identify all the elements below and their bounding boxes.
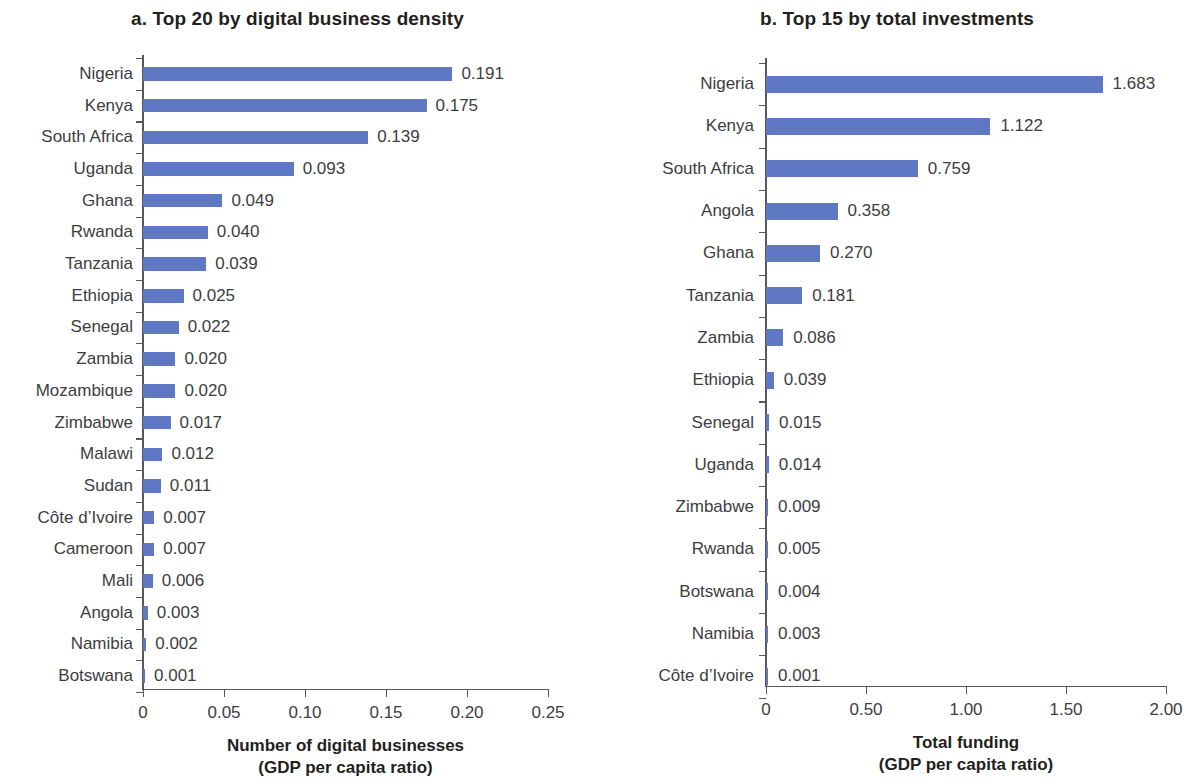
value-label: 0.007 (163, 540, 206, 557)
bar (766, 583, 768, 600)
category-label: Cameroon (54, 540, 133, 557)
category-label: Zambia (697, 329, 754, 346)
category-label: Rwanda (692, 540, 754, 557)
bar (766, 76, 1103, 93)
bar (143, 543, 154, 557)
bar (766, 287, 802, 304)
panel-a-x-axis-title-line1: Number of digital businesses (227, 736, 464, 755)
value-label: 0.139 (377, 128, 420, 145)
bar (143, 99, 427, 113)
category-label: Nigeria (79, 65, 133, 82)
value-label: 0.005 (778, 540, 821, 557)
category-label: Namibia (692, 625, 754, 642)
category-label: Ghana (703, 244, 754, 261)
category-label: Tanzania (686, 287, 754, 304)
x-axis-tick (866, 686, 867, 694)
y-axis-tick (759, 571, 766, 572)
value-label: 0.270 (830, 244, 873, 261)
value-label: 0.015 (779, 414, 822, 431)
y-axis-tick (136, 565, 143, 566)
y-axis-tick (759, 190, 766, 191)
y-axis-tick (136, 597, 143, 598)
panel-b-title: b. Top 15 by total investments (595, 8, 1189, 30)
bar (143, 384, 175, 398)
category-label: Uganda (73, 160, 133, 177)
bar (766, 499, 768, 516)
category-label: Kenya (706, 117, 754, 134)
category-label: Botswana (679, 583, 754, 600)
category-label: Namibia (71, 635, 133, 652)
value-label: 0.191 (461, 65, 504, 82)
x-axis-tick-label: 0.25 (531, 703, 564, 723)
bar (766, 160, 918, 177)
category-label: Ethiopia (72, 287, 133, 304)
value-label: 0.012 (171, 445, 214, 462)
value-label: 0.014 (779, 456, 822, 473)
bar (766, 329, 783, 346)
category-label: Angola (80, 604, 133, 621)
bar (143, 511, 154, 525)
value-label: 0.093 (303, 160, 346, 177)
value-label: 0.020 (184, 382, 227, 399)
x-axis-tick-label: 0 (138, 703, 147, 723)
value-label: 0.039 (215, 255, 258, 272)
bar (143, 606, 148, 620)
x-axis-tick (766, 686, 767, 694)
value-label: 0.022 (188, 318, 231, 335)
category-label: Ethiopia (693, 371, 754, 388)
panel-b-x-axis-title-line1: Total funding (913, 733, 1019, 752)
x-axis-tick-label: 0.20 (450, 703, 483, 723)
y-axis-tick (759, 232, 766, 233)
x-axis-tick (467, 689, 468, 697)
figure-two-panel-bar-charts: a. Top 20 by digital business density Nu… (0, 0, 1189, 783)
value-label: 0.175 (436, 97, 479, 114)
x-axis-tick (305, 689, 306, 697)
value-label: 0.001 (778, 667, 821, 684)
y-axis-tick (136, 629, 143, 630)
y-axis-tick (759, 317, 766, 318)
category-label: Malawi (80, 445, 133, 462)
category-label: Côte d’Ivoire (38, 509, 133, 526)
panel-a-x-axis-title: Number of digital businesses (GDP per ca… (33, 735, 658, 779)
bar (143, 226, 208, 240)
bar (766, 626, 768, 643)
y-axis-tick (136, 375, 143, 376)
x-axis-tick-label: 1.00 (949, 700, 982, 720)
value-label: 0.009 (778, 498, 821, 515)
value-label: 0.086 (793, 329, 836, 346)
category-label: Senegal (71, 318, 133, 335)
value-label: 0.020 (184, 350, 227, 367)
x-axis-tick-label: 0.10 (288, 703, 321, 723)
y-axis-tick (759, 148, 766, 149)
bar (143, 289, 184, 303)
x-axis-tick-label: 2.00 (1149, 700, 1182, 720)
y-axis-tick (759, 359, 766, 360)
x-axis-tick (143, 689, 144, 697)
x-axis-tick-label: 0 (761, 700, 770, 720)
bar (766, 414, 769, 431)
x-axis-tick (966, 686, 967, 694)
category-label: Mali (102, 572, 133, 589)
y-axis-tick (759, 444, 766, 445)
category-label: South Africa (41, 128, 133, 145)
bar (766, 245, 820, 262)
category-label: South Africa (662, 160, 754, 177)
y-axis-tick (136, 438, 143, 439)
y-axis-tick (136, 90, 143, 91)
panel-b-x-axis-title: Total funding (GDP per capita ratio) (656, 732, 1189, 776)
value-label: 0.004 (778, 583, 821, 600)
value-label: 0.358 (848, 202, 891, 219)
category-label: Senegal (692, 414, 754, 431)
x-axis-tick (224, 689, 225, 697)
bar (143, 574, 153, 588)
panel-a-title: a. Top 20 by digital business density (0, 8, 595, 30)
panel-b-x-axis-title-line2: (GDP per capita ratio) (656, 754, 1189, 776)
y-axis-tick (759, 105, 766, 106)
x-axis-tick-label: 0.05 (207, 703, 240, 723)
bar (766, 118, 990, 135)
value-label: 0.759 (928, 160, 971, 177)
bar (143, 352, 175, 366)
bar (143, 416, 171, 430)
category-label: Mozambique (36, 382, 133, 399)
panel-b-total-investments: b. Top 15 by total investments Total fun… (595, 0, 1189, 783)
